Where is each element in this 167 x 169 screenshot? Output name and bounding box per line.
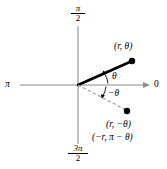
pi-over-2-numerator: π [71, 4, 85, 13]
polar-coordinate-figure: π 2 3π 2 π 0 (r, θ) θ −θ (r, −θ) (−r, π … [0, 0, 167, 169]
horizontal-axis-arrowhead [143, 82, 150, 88]
upper-point-label: (r, θ) [114, 42, 132, 52]
negative-theta-label: −θ [108, 89, 119, 99]
three-pi-over-2-denominator: 2 [68, 153, 88, 163]
pi-over-2-denominator: 2 [71, 13, 85, 23]
three-pi-over-2-numerator: 3π [68, 144, 88, 153]
axis-label-pi: π [5, 80, 10, 90]
lower-point-dot [124, 108, 130, 114]
theta-arc [104, 73, 108, 84]
axis-label-zero: 0 [154, 80, 159, 90]
theta-label: θ [112, 72, 117, 82]
upper-point-dot [129, 58, 135, 64]
lower-point-label-secondary: (−r, π − θ) [92, 133, 133, 143]
axis-label-3pi-over-2: 3π 2 [68, 144, 88, 164]
axis-label-pi-over-2: π 2 [71, 4, 85, 24]
lower-point-label-primary: (r, −θ) [106, 120, 131, 130]
